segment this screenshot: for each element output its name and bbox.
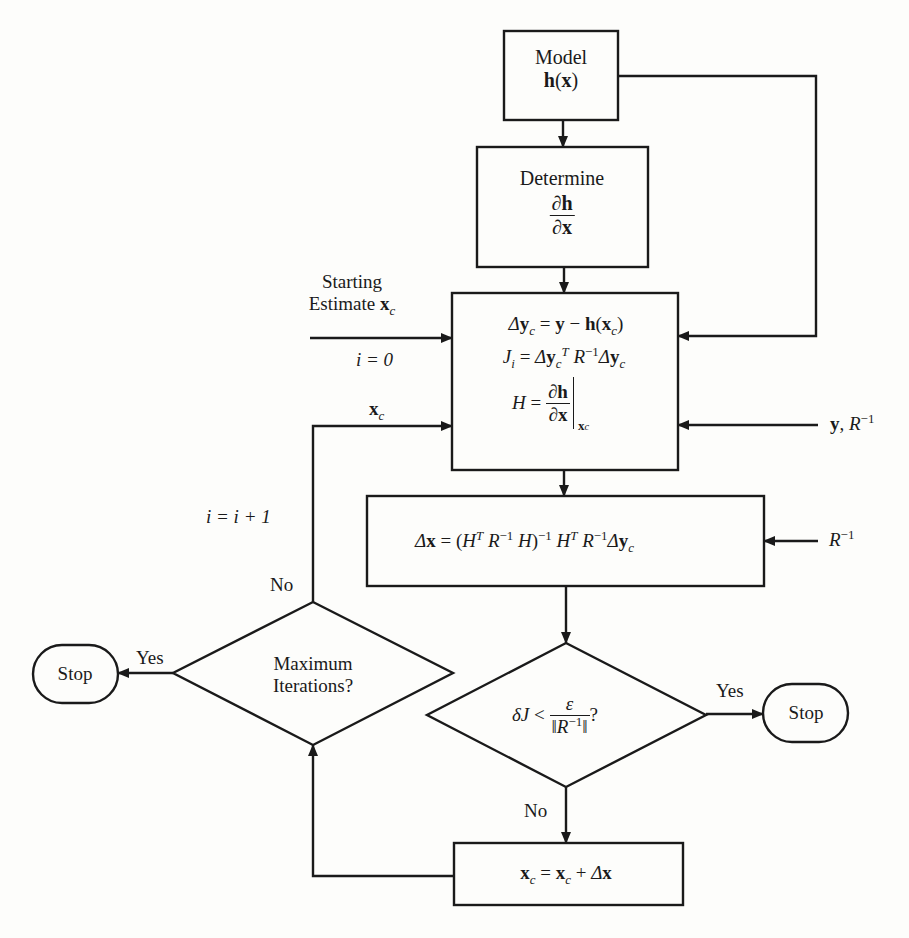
jacobian-fraction: ∂h ∂x	[546, 381, 570, 426]
convergence-yes-label: Yes	[716, 680, 744, 702]
flowchart-canvas: Model h(x) Determine ∂h ∂x Δyc = y − h(x…	[0, 0, 909, 938]
delta-x-equation: Δx = (HT R−1 H)−1 HT R−1Δyc	[415, 530, 634, 552]
convergence-no-label: No	[524, 800, 547, 822]
max-iterations-yes-label: Yes	[136, 647, 164, 669]
feedback-xc-label: xc	[369, 398, 384, 420]
innovation-equation: Δyc = y − h(xc)	[509, 313, 624, 335]
fraction-numerator: ∂h	[549, 192, 574, 216]
weights-input-label: R−1	[829, 529, 854, 551]
measurements-input-label: y, R−1	[830, 413, 874, 435]
iteration-init-label: i = 0	[356, 349, 393, 371]
update-state-equation: xc = xc + Δx	[520, 862, 612, 884]
fraction-denominator: ∂x	[549, 216, 574, 239]
convergence-condition: δJ < ε ‖R−1‖ ?	[512, 693, 598, 738]
max-iterations-no-label: No	[270, 574, 293, 596]
model-title: Model	[535, 46, 587, 69]
max-iterations-label: Maximum Iterations?	[273, 653, 353, 697]
iteration-increment-label: i = i + 1	[206, 506, 271, 528]
determine-label: Determine ∂h ∂x	[520, 167, 604, 239]
cost-equation: Ji = ΔycT R−1Δyc	[503, 346, 625, 368]
stop-right-label: Stop	[789, 702, 824, 724]
model-label: Model h(x)	[535, 46, 587, 92]
stop-left-label: Stop	[58, 663, 93, 685]
determine-title: Determine	[520, 167, 604, 190]
model-function: h(x)	[535, 69, 587, 92]
evaluated-at-bar: xc	[573, 377, 574, 429]
starting-estimate-label: Starting Estimate xc	[309, 271, 395, 315]
partial-derivative-fraction: ∂h ∂x	[549, 192, 574, 239]
tolerance-fraction: ε ‖R−1‖	[550, 693, 590, 738]
jacobian-equation: H = ∂h ∂x xc	[512, 377, 574, 429]
